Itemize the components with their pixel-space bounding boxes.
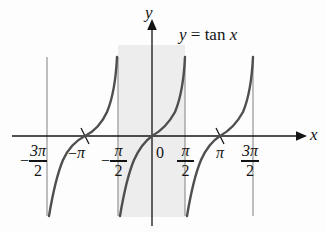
equation-function: tan: [205, 25, 226, 44]
fraction-numerator: 3π: [29, 143, 47, 160]
fraction-numerator: 3π: [241, 143, 259, 160]
fraction-numerator: π: [114, 143, 124, 160]
tick-label-neg-3pi-over-2: − 3π 2: [20, 142, 47, 178]
x-axis-label: x: [310, 126, 318, 143]
fraction-denominator: 2: [245, 162, 255, 179]
tick-value-neg-pi: π: [77, 145, 85, 161]
tick-label-pi-over-2: π 2: [177, 142, 194, 178]
equation-equals: =: [191, 25, 201, 44]
fraction-denominator: 2: [114, 162, 124, 179]
tick-label-3pi-over-2: 3π 2: [241, 142, 259, 178]
fraction-denominator: 2: [33, 162, 43, 179]
tick-sign-neg-pi: −: [68, 146, 77, 162]
y-axis-label: y: [145, 4, 153, 21]
tick-label-neg-pi-over-2: − π 2: [101, 142, 127, 178]
tick-sign-neg-3pi-over-2: −: [20, 153, 29, 169]
tangent-function-figure: y x y = tan x − 3π 2 − π − π 2: [0, 0, 325, 232]
equation-lhs: y: [179, 25, 187, 44]
plot-canvas: [0, 0, 325, 232]
fraction-denominator: 2: [181, 162, 191, 179]
tick-sign-neg-pi-over-2: −: [101, 153, 110, 169]
fraction-pi-over-2: π 2: [177, 143, 194, 179]
tick-label-neg-pi: − π: [68, 145, 85, 161]
fraction-3pi-over-2: 3π 2: [241, 143, 259, 179]
fraction-numerator: π: [180, 143, 190, 160]
x-axis-arrowhead: [296, 131, 307, 141]
tick-label-pi: π: [216, 145, 224, 161]
fraction-neg-3pi-over-2: 3π 2: [29, 143, 47, 179]
tick-label-zero: 0: [156, 145, 164, 161]
equation-label: y = tan x: [179, 26, 237, 43]
equation-argument: x: [230, 25, 238, 44]
fraction-neg-pi-over-2: π 2: [110, 143, 127, 179]
